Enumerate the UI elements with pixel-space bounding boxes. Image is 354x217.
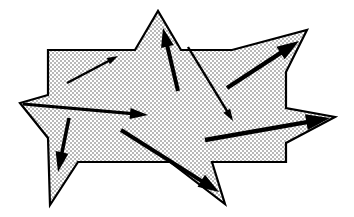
figure-canvas [0, 0, 354, 217]
polygon-arrow-diagram [0, 0, 354, 217]
